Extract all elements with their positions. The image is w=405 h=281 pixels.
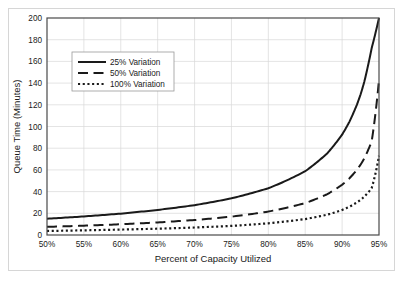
y-tick-label: 20	[33, 209, 43, 218]
y-tick-label: 40	[33, 188, 43, 197]
x-tick-label: 70%	[186, 240, 202, 249]
series-line	[47, 18, 379, 219]
y-tick-label: 80	[33, 144, 43, 153]
chart-canvas: 50%55%60%65%70%75%80%85%90%95% 020406080…	[9, 9, 394, 270]
x-tick-label: 80%	[260, 240, 276, 249]
x-tick-label: 65%	[149, 240, 165, 249]
y-tick-label: 140	[28, 79, 42, 88]
legend[interactable]: 25% Variation50% Variation100% Variation	[72, 52, 174, 91]
y-tick-label: 200	[28, 14, 42, 23]
x-tick-labels: 50%55%60%65%70%75%80%85%90%95%	[39, 240, 387, 249]
y-tick-label: 120	[28, 101, 42, 110]
y-tick-label: 160	[28, 57, 42, 66]
legend-label[interactable]: 50% Variation	[110, 69, 161, 78]
legend-label[interactable]: 25% Variation	[110, 58, 161, 67]
series-line	[47, 80, 379, 227]
legend-label[interactable]: 100% Variation	[110, 80, 165, 89]
chart-figure: 50%55%60%65%70%75%80%85%90%95% 020406080…	[8, 8, 395, 271]
y-tick-label: 0	[37, 231, 42, 240]
y-tick-label: 100	[28, 123, 42, 132]
y-tick-labels: 020406080100120140160180200	[28, 14, 42, 240]
x-tick-label: 50%	[39, 240, 55, 249]
curves-group	[47, 18, 379, 231]
y-axis-title: Queue Time (Minutes)	[11, 80, 22, 174]
y-tick-label: 60	[33, 166, 43, 175]
x-tick-label: 55%	[76, 240, 92, 249]
x-axis-title: Percent of Capacity Utilized	[155, 253, 272, 264]
y-tick-label: 180	[28, 36, 42, 45]
x-tick-label: 90%	[334, 240, 350, 249]
x-tick-label: 85%	[297, 240, 313, 249]
x-tick-label: 60%	[113, 240, 129, 249]
x-tick-label: 95%	[371, 240, 387, 249]
x-tick-label: 75%	[223, 240, 239, 249]
